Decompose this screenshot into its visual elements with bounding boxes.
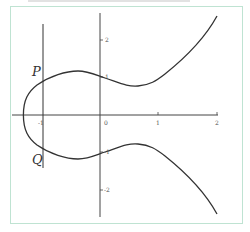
x-tick-label-1: 1 xyxy=(156,119,160,126)
curve-upper-branch xyxy=(23,16,217,115)
point-p-label: P xyxy=(32,64,41,79)
x-tick-label-2: 2 xyxy=(215,119,219,126)
point-q-label: Q xyxy=(32,152,43,167)
x-tick-label-neg1: -1 xyxy=(38,119,44,126)
y-tick-label-2: 2 xyxy=(105,36,109,43)
x-tick-label-0: 0 xyxy=(104,119,108,126)
curve-lower-branch xyxy=(23,115,217,214)
y-tick-label-neg1: -1 xyxy=(104,148,110,155)
y-tick-label-neg2: -2 xyxy=(104,186,110,193)
elliptic-curve-plot xyxy=(0,0,250,232)
y-tick-label-1: 1 xyxy=(105,73,109,80)
